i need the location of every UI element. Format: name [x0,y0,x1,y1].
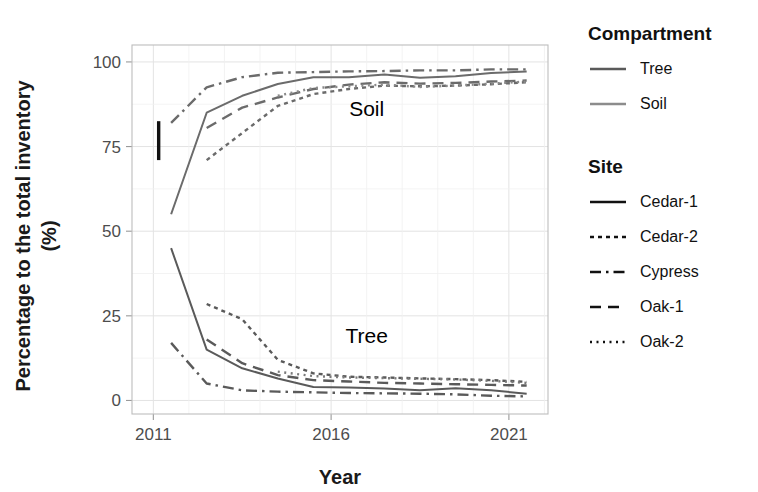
soil-group-label: Soil [349,97,384,120]
x-tick-label: 2016 [312,425,350,444]
legend-item-label: Oak-2 [640,333,684,350]
y-tick-label: 0 [112,391,121,410]
x-tick-label: 2011 [135,425,172,444]
chart-figure: Percentage to the total inventory (%) 02… [0,0,758,492]
legend-title-site: Site [588,156,623,177]
legend-item-label: Cedar-1 [640,193,698,210]
x-axis-title: Year [319,466,361,488]
legend-item-label: Tree [640,60,672,77]
y-axis-title-line1: Percentage to the total inventory [12,80,34,392]
legend-title-compartment: Compartment [588,23,712,44]
x-tick-label: 2021 [490,425,528,444]
legend-item-label: Oak-1 [640,298,684,315]
y-tick-label: 50 [102,222,121,241]
y-tick-label: 25 [102,307,121,326]
tree-group-label: Tree [345,324,387,347]
y-tick-label: 75 [102,138,121,157]
y-tick-label: 100 [93,53,121,72]
legend-item-label: Cypress [640,263,699,280]
y-axis-title-line2: (%) [38,220,60,251]
legend-item-label: Cedar-2 [640,228,698,245]
legend-item-label: Soil [640,95,667,112]
